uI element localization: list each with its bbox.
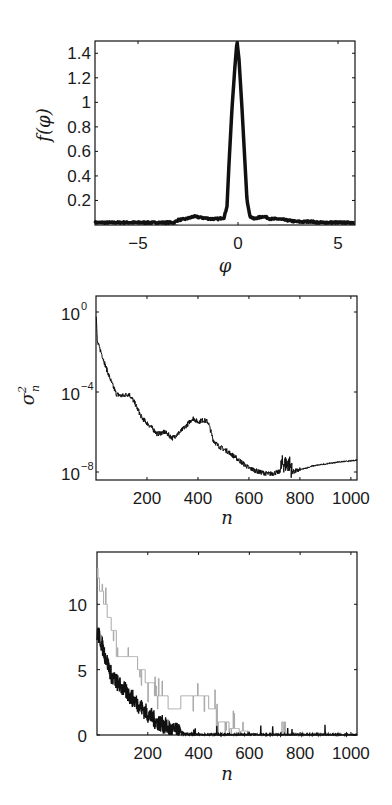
series-line <box>95 43 355 224</box>
y-axis-label: f(φ) <box>33 108 54 143</box>
y-tick-label: 5 <box>78 662 87 681</box>
y-tick-label: 10 <box>61 305 80 324</box>
series-line <box>96 317 357 478</box>
y-tick-label: 1.2 <box>67 69 91 88</box>
plot-frame <box>95 41 355 225</box>
x-tick-label: 5 <box>333 234 342 253</box>
y-tick-label: 1 <box>82 93 91 112</box>
y-tick-exponent: −4 <box>81 380 94 392</box>
y-tick-exponent: −8 <box>81 460 94 472</box>
y-tick-label: 0.4 <box>67 167 91 186</box>
series-step <box>97 568 357 735</box>
x-axis-label: n <box>221 763 233 784</box>
y-tick-label: 0 <box>78 727 87 746</box>
x-tick-label: 0 <box>233 234 242 253</box>
x-tick-label: 600 <box>235 489 263 508</box>
variance-plot: 200400600800100010010−410−8 n σ2n <box>16 296 370 528</box>
density-plot: −5050.20.40.60.811.21.4 φ f(φ) <box>33 41 355 276</box>
axis-ticks: 200400600800100010010−410−8 <box>61 296 370 508</box>
series-line <box>97 628 357 735</box>
y-tick-label: 1.4 <box>67 44 91 63</box>
x-tick-label: 1000 <box>332 489 370 508</box>
y-tick-label: 10 <box>61 385 80 404</box>
counts-curves <box>97 568 357 735</box>
figure: −5050.20.40.60.811.21.4 φ f(φ) 200400600… <box>0 0 392 805</box>
x-tick-label: −5 <box>128 234 147 253</box>
density-curves <box>95 43 355 225</box>
x-axis-label: n <box>221 507 233 528</box>
counts-plot: 20040060080010000510 n <box>68 552 370 784</box>
y-tick-exponent: 0 <box>81 300 87 312</box>
y-axis-label: σ2n <box>16 385 42 405</box>
y-tick-label: 0.8 <box>67 118 91 137</box>
x-tick-label: 1000 <box>332 744 370 763</box>
x-tick-label: 800 <box>286 489 314 508</box>
x-tick-label: 400 <box>184 744 212 763</box>
variance-curve <box>96 317 357 478</box>
x-tick-label: 600 <box>235 744 263 763</box>
y-tick-label: 0.2 <box>67 191 91 210</box>
x-tick-label: 200 <box>134 744 162 763</box>
x-tick-label: 400 <box>184 489 212 508</box>
y-tick-label: 10 <box>68 596 87 615</box>
x-axis-label: φ <box>219 255 232 276</box>
x-tick-label: 200 <box>133 489 161 508</box>
svg-text:σ2n: σ2n <box>16 385 42 405</box>
y-tick-label: 10 <box>61 465 80 484</box>
y-tick-label: 0.6 <box>67 142 91 161</box>
x-tick-label: 800 <box>286 744 314 763</box>
